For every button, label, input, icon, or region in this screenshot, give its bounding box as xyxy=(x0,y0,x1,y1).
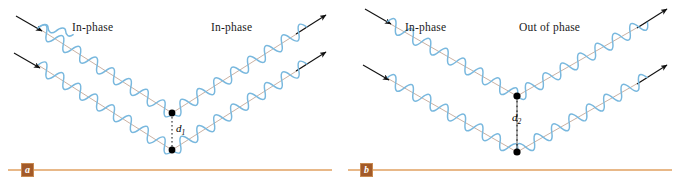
panel-b-badge: b xyxy=(360,163,373,177)
panel-a-spacing-subscript: 1 xyxy=(182,128,186,137)
wave-train-upper-outgoing xyxy=(169,22,311,119)
panel-a-graphic xyxy=(0,0,339,187)
panel-b-graphic xyxy=(340,0,679,187)
panel-a: In-phase In-phase d1 a xyxy=(0,0,339,187)
panel-a-incoming-phase-label: In-phase xyxy=(72,21,113,33)
ray-line-upper xyxy=(387,22,647,96)
panel-b: In-phase Out of phase d2 b xyxy=(340,0,679,187)
panel-b-outgoing-phase-label: Out of phase xyxy=(519,21,580,33)
scattering-dot-lower xyxy=(169,147,176,154)
scattering-dot-upper xyxy=(169,110,176,117)
panel-b-incoming-phase-label: In-phase xyxy=(405,21,446,33)
scattering-dot-upper xyxy=(513,92,520,99)
panel-b-spacing-subscript: 2 xyxy=(518,117,522,126)
wave-train-lower-incoming xyxy=(35,60,177,157)
panel-a-badge: a xyxy=(21,163,34,177)
wave-train-lower-outgoing xyxy=(169,59,311,156)
panel-a-spacing-label: d1 xyxy=(176,122,185,137)
bragg-diffraction-figure: In-phase In-phase d1 a xyxy=(0,0,679,187)
scattering-dot-lower xyxy=(513,148,520,155)
panel-a-outgoing-phase-label: In-phase xyxy=(211,21,252,33)
panel-b-spacing-label: d2 xyxy=(512,111,521,126)
outgoing-arrow-upper xyxy=(637,9,667,28)
incoming-arrow-lower xyxy=(363,65,389,80)
ray-line-upper xyxy=(38,28,306,113)
incoming-arrow-upper xyxy=(16,16,42,31)
incoming-arrow-lower xyxy=(14,53,40,68)
wave-train-upper-incoming xyxy=(35,23,177,120)
